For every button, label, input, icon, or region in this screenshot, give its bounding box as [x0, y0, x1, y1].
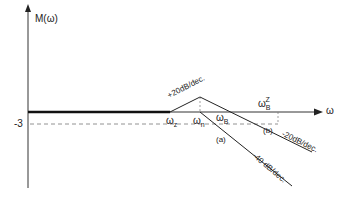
omega-n-base: ω [193, 115, 201, 126]
bode-magnitude-diagram [0, 0, 342, 200]
y-axis-arrow-icon [25, 4, 31, 12]
omega-z-base: ω [166, 115, 174, 126]
omega-b-sub: B [224, 118, 229, 125]
y-axis-label: M(ω) [35, 14, 58, 24]
omega-n-label: ωn [193, 116, 205, 126]
x-axis-arrow-icon [314, 109, 323, 116]
omega-z-sub: z [174, 121, 178, 128]
x-axis-label: ω [326, 106, 334, 116]
omega-bz-label: ωBZ [258, 99, 275, 109]
omega-n-sub: n [201, 121, 205, 128]
omega-bz-sub: B [266, 104, 271, 111]
y-tick-minus-3: -3 [14, 119, 23, 129]
omega-b-label: ωB [216, 113, 228, 123]
omega-b-base: ω [216, 112, 224, 123]
curve-b-label: (b) [263, 127, 273, 135]
omega-bz-sup: Z [265, 96, 269, 103]
omega-z-label: ωz [166, 116, 177, 126]
curve-a-label: (a) [216, 136, 226, 144]
rise-asymptote [170, 97, 200, 112]
